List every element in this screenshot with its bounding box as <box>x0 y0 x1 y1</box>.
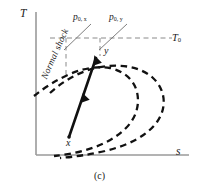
y-axis-label: T <box>20 8 26 20</box>
leader-lines-group <box>64 24 127 50</box>
figure-caption: (c) <box>0 170 199 181</box>
stagnation-pressure-x-label: p0, x <box>73 13 87 23</box>
stagnation-pressure-x-subscript: 0, x <box>78 16 87 22</box>
stagnation-pressure-y-label: p0, y <box>109 13 123 23</box>
stagnation-temperature-subscript: 0 <box>178 36 181 43</box>
figure-canvas <box>0 0 199 189</box>
fanno-line-curve <box>34 67 138 156</box>
state-point-y-label: y <box>104 46 108 56</box>
figure-normal-shock-ts-diagram: T s T0 p0, x p0, y y x Normal shock (c) <box>0 0 199 189</box>
stagnation-pressure-y-subscript: 0, y <box>114 16 123 22</box>
leader-line-p0x <box>64 24 91 50</box>
stagnation-temperature-label: T0 <box>172 33 181 44</box>
state-point-x-label: x <box>66 138 70 148</box>
x-axis-label: s <box>176 146 180 158</box>
